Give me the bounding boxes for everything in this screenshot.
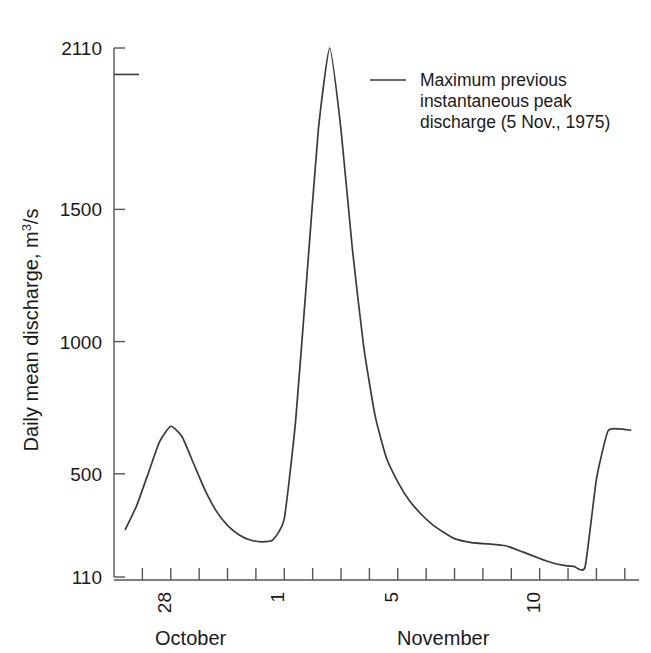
y-tick-label-1000: 1000 [60,332,102,353]
x-tick-label-1: 1 [267,592,288,603]
legend-label-line-1: Maximum previous [420,70,567,90]
y-tick-label-500: 500 [70,464,102,485]
y-tick-label-110: 110 [72,567,102,588]
x-tick-label-10: 10 [523,592,544,613]
y-tick-label-1500: 1500 [60,199,102,220]
legend-label-line-3: discharge (5 Nov., 1975) [420,112,610,132]
x-tick-label-5: 5 [381,592,402,603]
x-axis-month-label-october: October [155,627,226,649]
y-tick-label-2110: 2110 [61,38,102,59]
legend-label-line-2: instantaneous peak [420,91,572,111]
x-axis-month-label-november: November [397,627,490,649]
x-tick-label-28: 28 [154,592,175,613]
y-axis-title: Daily mean discharge, m3/s [19,209,42,452]
hydrograph-chart: 110500100015002110 281510 October Novemb… [0,0,651,653]
chart-figure: 110500100015002110 281510 October Novemb… [0,0,651,653]
